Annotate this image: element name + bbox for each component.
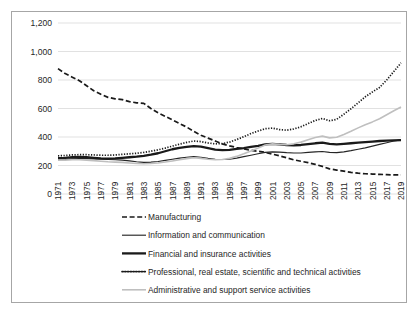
x-tick-label: 1981 xyxy=(126,181,135,200)
x-tick-label: 1977 xyxy=(97,181,106,200)
legend-item-label: Administrative and support service activ… xyxy=(148,285,310,295)
x-tick-label: 2015 xyxy=(369,181,378,200)
legend-item-label: Information and communication xyxy=(148,230,265,240)
series-line-4 xyxy=(58,107,401,164)
x-tick-label: 2001 xyxy=(269,181,278,200)
legend-item[interactable]: Professional, real estate, scientific an… xyxy=(122,267,361,277)
chart-figure: 02004006008001,0001,200 1971197319751977… xyxy=(11,11,407,303)
x-tick-label: 1971 xyxy=(54,181,63,200)
y-tick-label: 800 xyxy=(38,75,53,85)
x-tick-label: 2013 xyxy=(354,181,363,200)
legend-item[interactable]: Manufacturing xyxy=(122,212,201,222)
x-tick-label: 2003 xyxy=(283,181,292,200)
legend-item-label: Manufacturing xyxy=(148,212,201,222)
y-tick-label: 400 xyxy=(38,132,53,142)
x-tick-label: 1975 xyxy=(83,181,92,200)
x-tick-label: 2017 xyxy=(383,181,392,200)
x-tick-label: 1987 xyxy=(169,181,178,200)
legend-item[interactable]: Financial and insurance activities xyxy=(122,249,271,259)
x-tick-label: 1989 xyxy=(183,181,192,200)
chart-legend: ManufacturingInformation and communicati… xyxy=(122,212,361,295)
series-line-3 xyxy=(58,63,401,156)
x-tick-label: 1999 xyxy=(254,181,263,200)
x-tick-label: 1973 xyxy=(68,181,77,200)
y-axis-tick-labels: 02004006008001,0001,200 xyxy=(30,18,52,199)
legend-item[interactable]: Administrative and support service activ… xyxy=(122,285,310,295)
y-tick-label: 600 xyxy=(38,104,53,114)
x-tick-label: 1997 xyxy=(240,181,249,200)
legend-item-label: Financial and insurance activities xyxy=(148,249,271,259)
x-tick-label: 2009 xyxy=(326,181,335,200)
y-tick-label: 0 xyxy=(47,189,52,199)
series-line-2 xyxy=(58,140,401,159)
legend-item[interactable]: Information and communication xyxy=(122,230,265,240)
y-tick-label: 1,000 xyxy=(30,47,52,57)
x-tick-label: 1995 xyxy=(226,181,235,200)
line-chart: 02004006008001,0001,200 1971197319751977… xyxy=(12,12,406,302)
y-tick-label: 200 xyxy=(38,161,53,171)
x-tick-label: 1983 xyxy=(140,181,149,200)
x-tick-label: 2005 xyxy=(297,181,306,200)
x-tick-label: 2007 xyxy=(311,181,320,200)
x-axis-tick-labels: 1971197319751977197919811983198519871989… xyxy=(54,181,406,200)
x-tick-label: 1979 xyxy=(111,181,120,200)
gridlines xyxy=(58,23,401,194)
legend-item-label: Professional, real estate, scientific an… xyxy=(148,267,361,277)
x-tick-label: 1991 xyxy=(197,181,206,200)
x-tick-label: 1985 xyxy=(154,181,163,200)
x-tick-label: 2011 xyxy=(340,182,349,200)
y-tick-label: 1,200 xyxy=(30,18,52,28)
x-tick-label: 1993 xyxy=(211,181,220,200)
x-tick-label: 2019 xyxy=(397,181,406,200)
